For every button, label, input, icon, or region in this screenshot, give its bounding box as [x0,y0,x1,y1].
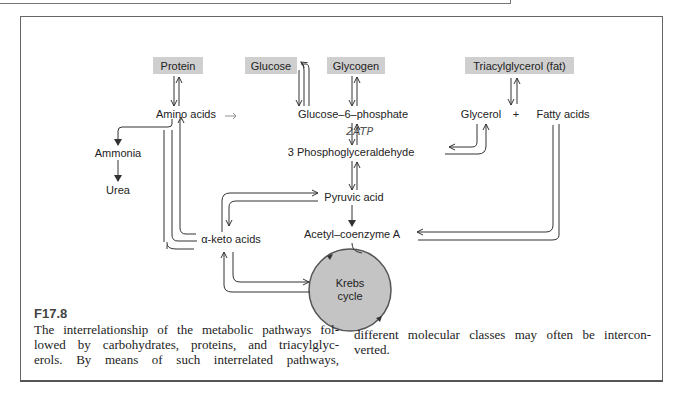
glucose-6-phosphate-label: Glucose–6–phosphate [298,108,408,120]
ammonia-label: Ammonia [95,147,142,159]
glucose-box: Glucose [245,57,297,74]
keto-acids-label: α-keto acids [201,233,261,245]
handwritten-arrow-icon [225,113,236,119]
glycerol-label: Glycerol [461,108,501,120]
urea-label: Urea [106,184,131,196]
krebs-cycle: Krebs cycle [309,249,391,331]
amino-acids-label: Amino acids [156,108,216,120]
caption-right-column: different molecular classes may often be… [354,327,651,357]
glucose-label: Glucose [251,60,291,72]
triacylglycerol-box: Triacylglycerol (fat) [465,57,574,74]
pyruvic-acid-label: Pyruvic acid [324,191,383,203]
caption-line: erols. By means of such interrelated pat… [34,352,339,367]
protein-box: Protein [153,57,203,74]
phosphoglyceraldehyde-label: 3 Phosphoglyceraldehyde [288,146,415,158]
caption-line: The interrelationship of the metabolic p… [34,322,339,337]
fatty-acids-label: Fatty acids [536,108,590,120]
krebs-label-line2: cycle [337,290,362,302]
caption-left-column: The interrelationship of the metabolic p… [34,322,339,367]
glycogen-label: Glycogen [333,60,379,72]
plus-sign: + [513,108,519,120]
glycogen-box: Glycogen [327,57,385,74]
caption-line: verted. [354,342,651,357]
figure-id: F17.8 [34,306,67,321]
krebs-label-line1: Krebs [336,277,365,289]
caption-line: different molecular classes may often be… [354,327,651,342]
handwritten-note: 2ATP [346,125,373,138]
triacylglycerol-label: Triacylglycerol (fat) [473,60,566,72]
caption-line: lowed by carbohydrates, proteins, and tr… [34,337,339,352]
acetyl-coa-label: Acetyl–coenzyme A [304,228,401,240]
protein-label: Protein [161,60,196,72]
